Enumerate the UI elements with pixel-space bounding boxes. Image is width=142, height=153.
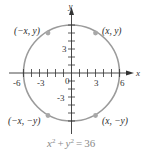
y-tick-label-3: 3 [62,44,67,54]
point-label-quadrant-3: (−x, −y) [8,116,40,127]
point-quadrant-2 [46,31,51,36]
eq-y-exp: 2 [71,137,75,145]
circle-equation: x2+y2=36 [46,137,96,149]
eq-equals: = [76,137,82,149]
y-axis-label: y [68,1,73,11]
eq-x-exp: 2 [52,137,56,145]
x-axis-arrow-icon [126,71,134,76]
x-axis-label: x [135,68,140,78]
eq-rhs: 36 [84,137,96,149]
point-quadrant-3 [46,113,51,118]
point-label-quadrant-2: (−x, y) [14,26,40,37]
y-tick-label-neg3: -3 [57,93,65,103]
svg-text:x2+y2=36: x2+y2=36 [46,137,96,149]
point-quadrant-1 [93,31,98,36]
point-label-quadrant-1: (x, y) [102,26,122,37]
point-label-quadrant-4: (x, −y) [102,116,128,127]
x-tick-label-neg3: -3 [37,78,45,88]
point-quadrant-4 [93,113,98,118]
x-tick-label-3: 3 [94,78,99,88]
eq-plus: + [57,137,63,149]
circle-diagram: y x 0 -6 -3 3 6 3 -3 (−x, y) (x, y) (−x,… [0,0,142,153]
origin-label: 0 [65,76,70,86]
x-tick-label-6: 6 [120,78,125,88]
x-tick-label-neg6: -6 [13,78,21,88]
